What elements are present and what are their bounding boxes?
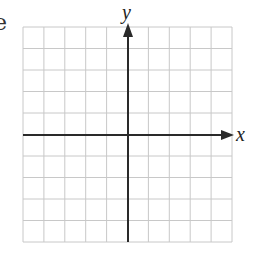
coordinate-plane: e y x	[0, 0, 260, 257]
x-axis-label: x	[236, 124, 245, 144]
grid-canvas	[0, 0, 260, 257]
y-axis-arrow-icon	[123, 23, 133, 37]
y-axis-label: y	[122, 2, 131, 22]
